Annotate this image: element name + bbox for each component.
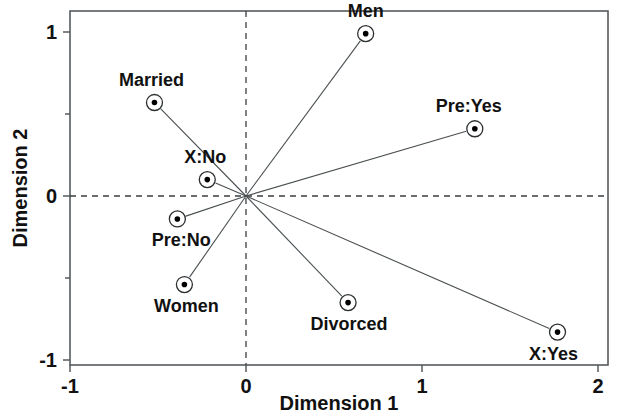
x-tick-label: 2: [592, 375, 603, 397]
x-axis-title: Dimension 1: [280, 392, 399, 414]
marker-dot: [152, 100, 158, 106]
marker-dot: [182, 282, 188, 288]
y-axis-title: Dimension 2: [9, 129, 31, 248]
point-label: Men: [348, 1, 384, 21]
marker-dot: [204, 177, 210, 183]
y-tick-label: 0: [46, 185, 57, 207]
marker-dot: [555, 329, 561, 335]
marker-dot: [175, 216, 181, 222]
point-label: Divorced: [311, 314, 388, 334]
plot-background: [0, 0, 619, 419]
x-tick-label: 1: [416, 375, 427, 397]
x-tick-label: -1: [61, 375, 79, 397]
correspondence-analysis-plot: -1012 -101 MenMarriedPre:YesX:NoPre:NoWo…: [0, 0, 619, 419]
point-label: Women: [154, 296, 219, 316]
point-label: Pre:No: [152, 230, 211, 250]
marker-dot: [472, 126, 478, 132]
plot-svg: -1012 -101 MenMarriedPre:YesX:NoPre:NoWo…: [0, 0, 619, 419]
marker-dot: [345, 300, 351, 306]
y-tick-label: 1: [46, 21, 57, 43]
point-label: X:Yes: [529, 344, 578, 364]
x-tick-label: 0: [240, 375, 251, 397]
marker-dot: [363, 31, 369, 37]
point-label: Pre:Yes: [436, 96, 502, 116]
point-label: Married: [119, 70, 184, 90]
y-tick-label: -1: [39, 349, 57, 371]
point-label: X:No: [184, 147, 226, 167]
